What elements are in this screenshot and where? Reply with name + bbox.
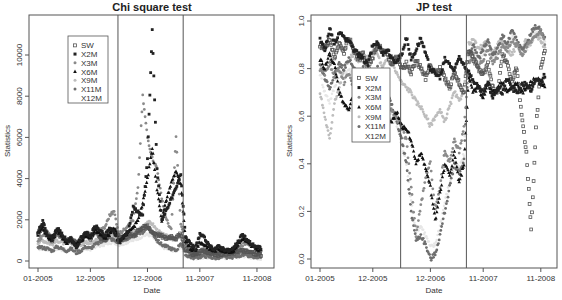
data-point [432, 256, 435, 259]
y-tick-label: 0.6 [297, 110, 306, 122]
y-tick-label: 6000 [15, 128, 24, 146]
data-point [434, 244, 437, 247]
data-point [147, 140, 150, 143]
data-point [475, 51, 478, 54]
legend-marker-icon [358, 115, 361, 118]
data-point [153, 98, 156, 101]
data-point [443, 205, 446, 208]
data-point [520, 113, 523, 116]
data-point [445, 202, 448, 205]
data-point [530, 228, 533, 231]
data-point [408, 192, 411, 195]
data-point [507, 78, 510, 81]
data-point [450, 102, 453, 105]
data-point [244, 235, 247, 238]
data-point [328, 137, 331, 140]
data-point [431, 187, 434, 190]
data-point [534, 146, 537, 149]
data-point [513, 33, 516, 36]
data-point [194, 248, 197, 251]
data-point [351, 55, 354, 58]
data-point [141, 111, 144, 114]
data-point [428, 125, 431, 128]
data-point [53, 233, 56, 236]
data-point [448, 160, 451, 163]
data-point [541, 41, 544, 44]
data-point [348, 68, 351, 71]
data-point [331, 68, 334, 71]
data-point [453, 150, 456, 153]
x-tick-label: 11-2008 [243, 274, 272, 283]
data-point [339, 71, 342, 74]
data-point [321, 62, 324, 65]
legend-marker-icon [358, 86, 361, 89]
data-point [487, 61, 490, 64]
data-point [330, 127, 333, 130]
data-point [114, 218, 117, 221]
data-point [436, 234, 439, 237]
y-tick-label: 10000 [15, 43, 24, 66]
data-point [424, 231, 427, 234]
data-point [479, 57, 482, 60]
data-point [425, 235, 428, 238]
data-point [40, 237, 43, 240]
data-point [140, 124, 143, 127]
data-point [176, 182, 179, 185]
legend-marker-icon [74, 53, 77, 56]
data-point [467, 70, 470, 73]
data-point [421, 197, 424, 200]
legend-label: X12M [365, 132, 386, 141]
data-point [136, 192, 139, 195]
data-point [425, 246, 428, 249]
data-point [323, 116, 326, 119]
y-tick-label: 0.4 [297, 158, 306, 170]
data-point [331, 34, 334, 37]
data-point [524, 50, 527, 53]
data-point [248, 240, 251, 243]
data-point [319, 37, 322, 40]
data-point [152, 52, 155, 55]
data-point [158, 193, 161, 196]
data-point [329, 86, 332, 89]
data-point [179, 223, 182, 226]
data-point [405, 137, 408, 140]
y-tick-label: 4000 [15, 169, 24, 187]
data-point [447, 196, 450, 199]
legend-marker-icon [74, 61, 77, 64]
data-point [439, 233, 442, 236]
data-point [496, 57, 499, 60]
data-point [421, 42, 424, 45]
data-point [458, 55, 461, 58]
data-point [463, 62, 466, 65]
data-point [151, 28, 154, 31]
data-point [461, 133, 464, 136]
data-point [464, 135, 467, 138]
data-point [171, 196, 174, 199]
data-point [537, 79, 540, 82]
data-point [419, 203, 422, 206]
data-point [180, 185, 183, 188]
legend-label: X9M [81, 76, 98, 85]
data-point [169, 184, 172, 187]
data-point [446, 113, 449, 116]
data-point [515, 45, 518, 48]
data-point [531, 211, 534, 214]
data-point [410, 186, 413, 189]
data-point [176, 164, 179, 167]
data-point [522, 53, 525, 56]
data-point [322, 43, 325, 46]
data-point [442, 169, 445, 172]
data-point [329, 28, 332, 31]
data-point [526, 164, 529, 167]
data-point [324, 46, 327, 49]
data-point [157, 239, 160, 242]
data-point [391, 110, 394, 113]
data-point [402, 144, 405, 147]
y-tick-label: 2000 [15, 210, 24, 228]
data-point [144, 175, 147, 178]
data-point [439, 78, 442, 81]
data-point [74, 250, 77, 253]
data-point [526, 46, 529, 49]
data-point [449, 157, 452, 160]
data-point [527, 178, 530, 181]
